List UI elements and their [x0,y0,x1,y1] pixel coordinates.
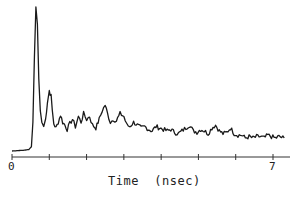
x-axis-label: Time (nsec) [108,174,201,188]
x-tick-label: 0 [8,161,15,172]
intensity-line [12,7,284,151]
x-axis [12,154,290,160]
x-tick-label: 7 [269,161,276,172]
chart [0,0,300,198]
